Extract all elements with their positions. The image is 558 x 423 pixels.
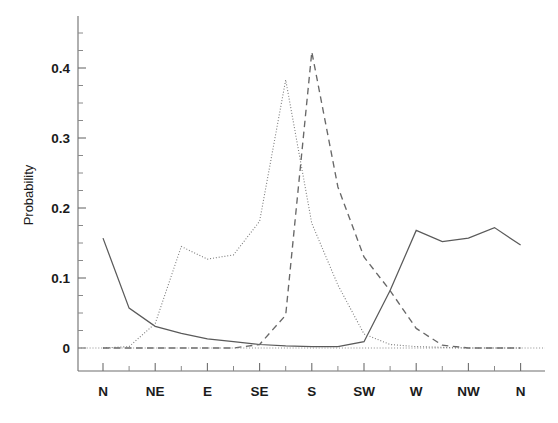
x-tick-label: N [98,384,108,399]
chart-series-group [78,52,545,348]
x-tick-label: W [410,384,423,399]
y-tick-label: 0.3 [51,131,70,146]
y-tick-label: 0 [62,341,70,356]
series-solid-curve [103,228,521,347]
x-tick-label: E [203,384,212,399]
x-tick-label: NW [457,384,480,399]
chart-axes [78,16,545,371]
x-tick-label: S [307,384,316,399]
series-dotted-curve [103,80,521,348]
y-axis-title-text: Probability [21,164,36,225]
series-dashed-curve [103,52,521,348]
y-tick-label: 0.2 [51,201,70,216]
chart-canvas: 00.10.20.30.4 NNEESESSWWNWN Probability [0,0,558,423]
x-axis-ticks [103,363,521,371]
x-tick-label: SW [353,384,375,399]
x-axis-tick-labels: NNEESESSWWNWN [98,384,525,399]
y-tick-label: 0.1 [51,271,70,286]
y-axis-tick-labels: 00.10.20.30.4 [51,61,70,356]
y-axis-title: Probability [21,164,36,225]
y-axis-ticks [78,33,86,348]
probability-chart: 00.10.20.30.4 NNEESESSWWNWN Probability [0,0,558,423]
x-tick-label: SE [251,384,269,399]
y-tick-label: 0.4 [51,61,70,76]
x-tick-label: NE [146,384,165,399]
x-tick-label: N [516,384,526,399]
